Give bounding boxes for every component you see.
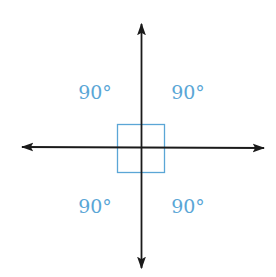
perpendicular-lines-diagram — [0, 0, 276, 277]
horizontal-line — [22, 147, 264, 148]
angle-label-bottom-left: 90° — [78, 197, 112, 216]
angle-label-top-right: 90° — [171, 83, 205, 102]
angle-label-top-left: 90° — [78, 83, 112, 102]
angle-label-bottom-right: 90° — [171, 197, 205, 216]
